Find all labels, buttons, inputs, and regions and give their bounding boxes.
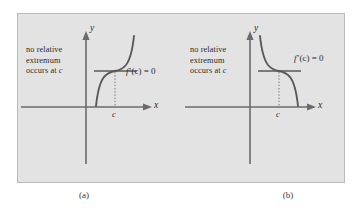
derivative-equals-a: = 0 [142, 66, 156, 76]
note-variable-c: c [223, 66, 227, 75]
y-axis-label-b: y [254, 23, 258, 33]
derivative-label-b: f’(c) = 0 [294, 53, 324, 63]
caption-b: (b) [268, 190, 308, 200]
note-line-2: extremum [26, 56, 98, 67]
note-line-1: no relative [190, 45, 262, 56]
derivative-label-a: f’(c) = 0 [126, 66, 156, 76]
x-axis-arrowhead-b [307, 103, 316, 110]
y-axis-arrowhead-b [246, 31, 253, 40]
note-text-a: no relative extremum occurs at c [26, 45, 98, 77]
figure-page: no relative extremum occurs at c f’(c) =… [0, 0, 356, 214]
derivative-arg-b: (c) [300, 53, 310, 63]
note-text-b: no relative extremum occurs at c [190, 45, 262, 77]
x-axis-arrowhead-a [143, 103, 152, 110]
note-line-2: extremum [190, 56, 262, 67]
panel-b: no relative extremum occurs at c f’(c) =… [182, 14, 346, 184]
panel-a-graph [18, 14, 182, 184]
tick-label-c-b: c [276, 109, 280, 119]
caption-a: (a) [64, 190, 104, 200]
note-line-1: no relative [26, 45, 98, 56]
x-axis-label-a: x [154, 100, 158, 110]
derivative-equals-b: = 0 [310, 53, 324, 63]
panel-a: no relative extremum occurs at c f’(c) =… [18, 14, 182, 184]
note-line-3: occurs at c [190, 66, 262, 77]
note-variable-c: c [59, 66, 63, 75]
note-line-3: occurs at c [26, 66, 98, 77]
figure-panel-box: no relative extremum occurs at c f’(c) =… [17, 13, 345, 183]
y-axis-label-a: y [90, 23, 94, 33]
panel-b-graph [182, 14, 346, 184]
x-axis-label-b: x [318, 100, 322, 110]
tick-label-c-a: c [112, 109, 116, 119]
derivative-arg-a: (c) [132, 66, 142, 76]
y-axis-arrowhead-a [82, 31, 89, 40]
